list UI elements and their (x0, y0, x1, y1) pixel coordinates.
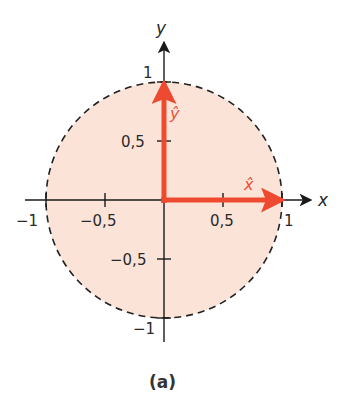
x-tick-label: −0,5 (80, 212, 116, 230)
unit-circle-diagram: x y −1 −0,5 0,5 1 1 0,5 −0,5 −1 x̂ ŷ (a) (0, 0, 345, 409)
y-tick-label: −1 (133, 320, 155, 338)
figure-caption: (a) (149, 372, 176, 392)
y-axis-label: y (155, 18, 167, 38)
y-tick-label: 0,5 (121, 133, 145, 151)
x-tick-label: −1 (16, 212, 38, 230)
x-tick-label: 1 (284, 212, 294, 230)
x-axis-label: x (317, 190, 329, 210)
y-hat-label: ŷ (169, 104, 180, 123)
y-tick-label: 1 (143, 64, 153, 82)
y-tick-label: −0,5 (110, 251, 146, 269)
x-tick-label: 0,5 (210, 212, 234, 230)
x-hat-label: x̂ (243, 175, 254, 194)
